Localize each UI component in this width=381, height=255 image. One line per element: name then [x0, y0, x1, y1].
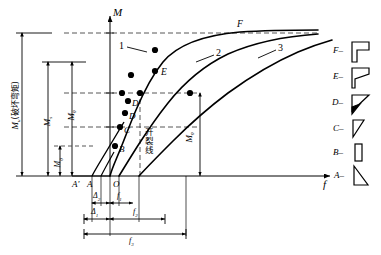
legend-shapes — [352, 42, 369, 185]
curve-label-3: 3 — [278, 43, 283, 53]
point-C — [117, 124, 123, 130]
dimension-label-M0-prime: M0 — [54, 146, 64, 180]
curve-label-leaders — [127, 47, 276, 62]
point-D — [122, 110, 128, 116]
point-curve2-Ms — [137, 90, 143, 96]
legend-key-E: E– — [333, 72, 343, 81]
point-E — [152, 68, 158, 74]
label-A: A — [87, 180, 93, 189]
point-B — [112, 143, 118, 149]
point-curve1-upper — [128, 72, 134, 78]
legend-shape-E — [352, 68, 369, 88]
legend-key-F-dash: – — [339, 45, 344, 55]
branch-A — [101, 152, 114, 176]
label-A-prime: A' — [72, 180, 79, 189]
legend-shape-D — [352, 95, 369, 114]
dimension-label-Ms: Ms — [43, 101, 54, 141]
legend-key-A: A– — [334, 171, 344, 180]
cracking-line-label: 开裂线 — [143, 128, 152, 155]
legend-key-F: F– — [333, 46, 343, 55]
point-curve1-F — [152, 47, 158, 53]
legend-shape-A — [354, 166, 368, 185]
curve-label-1: 1 — [119, 41, 124, 51]
dimension-label-Mu: Mu(破坏弯矩) — [11, 65, 22, 145]
axis-x-label: f — [323, 179, 326, 190]
curve-3 — [139, 40, 332, 176]
legend-key-D: D– — [332, 98, 343, 107]
dimension-label-f1: f1 — [117, 192, 122, 202]
legend-shape-B — [355, 144, 362, 161]
point-Dprime — [125, 98, 131, 104]
legend-key-C: C– — [333, 124, 344, 133]
legend-key-D-dash: – — [339, 97, 344, 107]
point-curve1-Ms — [119, 90, 125, 96]
dimension-label-M0-right: M0 — [185, 117, 196, 157]
point-label-C: C — [124, 126, 130, 135]
label-O: O — [113, 180, 120, 189]
point-label-E: E — [161, 68, 167, 78]
axis-y-label: M — [113, 7, 122, 18]
legend-key-B-dash: – — [339, 147, 344, 157]
dimension-label-f2: f2 — [133, 208, 138, 218]
dimension-label-delta1: Δ1 — [91, 208, 98, 218]
point-curve3-Ms — [187, 90, 193, 96]
dimension-label-f3: f3 — [129, 237, 134, 247]
legend-key-B: B– — [333, 148, 343, 157]
legend-shape-C — [353, 120, 364, 137]
point-label-F: F — [237, 20, 243, 30]
dimension-label-M0: M0 — [67, 95, 78, 135]
legend-shape-F — [352, 42, 369, 62]
point-label-D-prime: D' — [132, 99, 140, 108]
curve-label-2: 2 — [216, 48, 221, 58]
point-label-D: D — [129, 112, 136, 121]
legend-key-A-dash: – — [340, 170, 345, 180]
dimension-label-delta2: Δ2 — [93, 192, 100, 202]
legend-key-C-dash: – — [339, 123, 344, 133]
point-label-B: B — [119, 145, 125, 154]
figure-canvas: M f Mu(破坏弯矩) Ms M0 M0 M0 开裂线 A' A O 1 2 … — [0, 0, 381, 255]
legend-key-E-dash: – — [339, 71, 344, 81]
